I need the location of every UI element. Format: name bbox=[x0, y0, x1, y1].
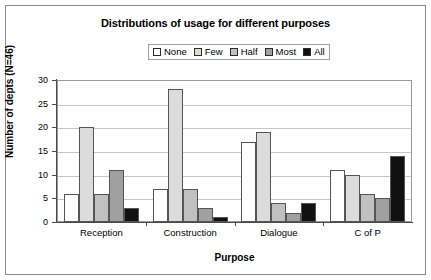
legend-item-few: Few bbox=[194, 47, 223, 57]
bar-group bbox=[153, 80, 228, 222]
legend-item-none: None bbox=[153, 47, 187, 57]
legend-item-half: Half bbox=[230, 47, 258, 57]
x-tick-label: Construction bbox=[146, 227, 235, 238]
bar-most bbox=[286, 213, 301, 222]
x-tick-label: Reception bbox=[57, 227, 146, 238]
y-tick-label: 5 bbox=[28, 193, 48, 203]
chart-title: Distributions of usage for different pur… bbox=[0, 17, 431, 29]
chart-legend: NoneFewHalfMostAll bbox=[148, 44, 330, 60]
legend-label: None bbox=[164, 47, 187, 57]
chart-figure: Distributions of usage for different pur… bbox=[0, 0, 431, 280]
bar-few bbox=[256, 132, 271, 222]
y-tick-label: 25 bbox=[28, 99, 48, 109]
legend-item-all: All bbox=[303, 47, 325, 57]
y-tick-mark bbox=[52, 104, 56, 105]
bar-none bbox=[64, 194, 79, 222]
bar-group bbox=[241, 80, 316, 222]
bar-half bbox=[183, 189, 198, 222]
bar-group bbox=[64, 80, 139, 222]
bar-few bbox=[79, 127, 94, 222]
bar-most bbox=[198, 208, 213, 222]
y-tick-label: 30 bbox=[28, 75, 48, 85]
x-tick-mark bbox=[235, 222, 236, 226]
x-tick-label: Dialogue bbox=[235, 227, 324, 238]
x-tick-mark bbox=[146, 222, 147, 226]
x-axis-title: Purpose bbox=[57, 252, 412, 263]
legend-label: Half bbox=[241, 47, 258, 57]
bar-few bbox=[345, 175, 360, 222]
y-tick-mark bbox=[52, 127, 56, 128]
legend-label: Most bbox=[276, 47, 297, 57]
x-tick-label: C of P bbox=[323, 227, 412, 238]
legend-swatch-icon bbox=[153, 48, 161, 56]
bar-all bbox=[124, 208, 139, 222]
bar-groups bbox=[57, 80, 412, 222]
y-tick-label: 15 bbox=[28, 146, 48, 156]
x-tick-mark bbox=[323, 222, 324, 226]
bar-most bbox=[375, 198, 390, 222]
bar-all bbox=[301, 203, 316, 222]
y-axis-title: Number of depts (N=46) bbox=[4, 27, 15, 177]
bar-none bbox=[330, 170, 345, 222]
legend-item-most: Most bbox=[265, 47, 297, 57]
y-tick-label: 20 bbox=[28, 122, 48, 132]
y-tick-mark bbox=[52, 175, 56, 176]
bar-all bbox=[213, 217, 228, 222]
y-tick-mark bbox=[52, 222, 56, 223]
legend-swatch-icon bbox=[303, 48, 311, 56]
legend-swatch-icon bbox=[265, 48, 273, 56]
legend-label: Few bbox=[205, 47, 223, 57]
bar-all bbox=[390, 156, 405, 222]
y-tick-label: 0 bbox=[28, 217, 48, 227]
legend-swatch-icon bbox=[194, 48, 202, 56]
bar-group bbox=[330, 80, 405, 222]
bar-half bbox=[94, 194, 109, 222]
y-tick-mark bbox=[52, 151, 56, 152]
bar-most bbox=[109, 170, 124, 222]
y-tick-mark bbox=[52, 80, 56, 81]
bar-none bbox=[241, 142, 256, 222]
legend-swatch-icon bbox=[230, 48, 238, 56]
bar-none bbox=[153, 189, 168, 222]
bar-half bbox=[360, 194, 375, 222]
y-tick-label: 10 bbox=[28, 170, 48, 180]
y-tick-mark bbox=[52, 198, 56, 199]
legend-label: All bbox=[314, 47, 325, 57]
bar-half bbox=[271, 203, 286, 222]
bar-few bbox=[168, 89, 183, 222]
